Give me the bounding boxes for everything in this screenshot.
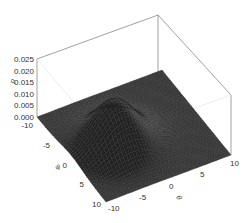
z-axis: 0.025 0.020 0.015 0.010 0.005 0.000 p (8, 55, 34, 122)
x-tick: 0 (63, 161, 68, 170)
z-tick: 0.010 (14, 90, 35, 99)
surface-plot: 0.025 0.020 0.015 0.010 0.005 0.000 p -1… (0, 0, 250, 223)
y-tick: -10 (108, 204, 120, 213)
y-tick: 5 (200, 170, 205, 179)
x-axis-label: φ (53, 162, 62, 171)
x-tick: -10 (21, 121, 33, 130)
surface-mesh (37, 70, 231, 202)
y-tick: 10 (230, 159, 239, 168)
x-tick: 5 (80, 180, 85, 189)
z-tick: 0.015 (14, 78, 35, 87)
x-tick: -5 (43, 141, 51, 150)
y-axis-label: θ (174, 194, 183, 202)
z-tick: 0.025 (14, 55, 35, 64)
z-tick: 0.005 (14, 101, 35, 110)
y-tick: -5 (139, 193, 147, 202)
y-tick: 0 (169, 182, 174, 191)
x-tick: 10 (92, 200, 101, 209)
z-tick: 0.020 (14, 67, 35, 76)
